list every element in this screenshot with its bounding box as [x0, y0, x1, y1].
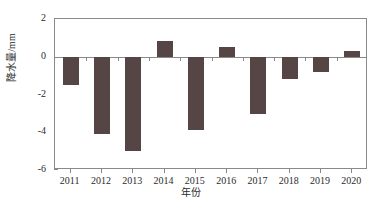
zero-line-tick — [243, 58, 244, 61]
plot-area — [54, 18, 367, 169]
zero-line-tick — [118, 58, 119, 61]
bar — [94, 57, 110, 134]
y-axis-tick-label: 2 — [28, 13, 46, 23]
bar — [250, 57, 266, 115]
y-axis-tick-mark — [54, 169, 58, 170]
y-axis-tick-label: 0 — [28, 51, 46, 61]
x-axis-tick-mark — [132, 169, 133, 173]
bar — [188, 57, 204, 131]
bar — [157, 41, 173, 57]
zero-line-tick — [149, 58, 150, 61]
zero-line-tick — [86, 58, 87, 61]
y-axis-tick-label: -6 — [28, 164, 46, 174]
zero-line-tick — [337, 58, 338, 61]
bar — [125, 57, 141, 151]
bar — [63, 57, 79, 85]
x-axis-tick-label: 2020 — [331, 175, 371, 186]
y-axis-tick-label: -4 — [28, 126, 46, 136]
zero-line-tick — [274, 58, 275, 61]
x-axis-tick-mark — [70, 169, 71, 173]
bar — [282, 57, 298, 80]
zero-line-tick — [212, 58, 213, 61]
precipitation-anomaly-bar-chart: 20-2-4-6 2011201220132014201520162017201… — [0, 0, 381, 205]
bar — [219, 47, 235, 56]
bar — [344, 51, 360, 57]
x-axis-tick-mark — [101, 169, 102, 173]
x-axis-tick-mark — [289, 169, 290, 173]
x-axis-tick-mark — [195, 169, 196, 173]
x-axis-title: 年份 — [0, 187, 381, 198]
bar — [313, 57, 329, 72]
x-axis-tick-mark — [164, 169, 165, 173]
zero-line-tick — [305, 58, 306, 61]
y-axis-tick-label: -2 — [28, 89, 46, 99]
x-axis-tick-mark — [257, 169, 258, 173]
x-axis-tick-mark — [226, 169, 227, 173]
y-axis-title: 降水量/mm — [6, 3, 17, 113]
zero-line-tick — [180, 58, 181, 61]
x-axis-tick-mark — [320, 169, 321, 173]
x-axis-tick-mark — [351, 169, 352, 173]
